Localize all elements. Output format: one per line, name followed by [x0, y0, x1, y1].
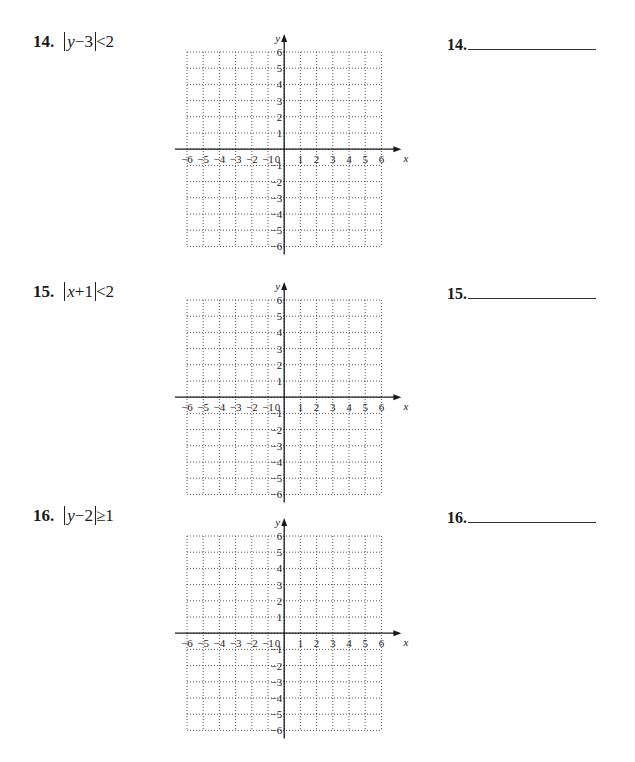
x-axis-label: x [402, 636, 408, 648]
x-tick-label: 4 [346, 401, 352, 413]
x-axis-arrow-icon [393, 394, 401, 400]
x-tick-label: −4 [214, 153, 226, 165]
y-tick-label: 2 [277, 111, 283, 123]
x-tick-label: −2 [246, 153, 258, 165]
y-tick-label: 2 [277, 359, 283, 371]
y-axis-arrow-icon [281, 518, 287, 526]
x-axis-arrow-icon [393, 146, 401, 152]
x-axis-arrow-icon [393, 630, 401, 636]
problem-statement: 14.y−3<2 [33, 32, 114, 52]
answer-label: 14. [447, 36, 467, 53]
coordinate-grid-16[interactable]: xy−6−5−4−3−2−10123456654321−1−2−3−4−5−6 [170, 514, 410, 744]
x-tick-label: −4 [214, 637, 226, 649]
y-tick-label: 4 [277, 78, 283, 90]
problem-statement: 15.x+1<2 [33, 282, 114, 302]
problem-number: 16. [33, 506, 54, 525]
x-tick-label: 3 [330, 637, 336, 649]
x-tick-label: 4 [346, 637, 352, 649]
y-tick-label: 1 [277, 127, 283, 139]
x-tick-label: 5 [362, 153, 368, 165]
operator: − [75, 32, 85, 51]
y-tick-label: −5 [270, 224, 282, 236]
y-axis-arrow-icon [281, 282, 287, 290]
x-tick-label: −4 [214, 401, 226, 413]
y-tick-label: 3 [277, 579, 283, 591]
x-tick-label: 6 [379, 153, 385, 165]
y-tick-label: 4 [277, 326, 283, 338]
y-tick-label: 5 [277, 546, 283, 558]
variable: y [67, 32, 75, 51]
x-tick-label: 1 [298, 153, 304, 165]
y-tick-label: −1 [270, 159, 282, 171]
x-tick-label: −5 [197, 401, 209, 413]
x-tick-label: −3 [230, 637, 242, 649]
x-tick-label: −6 [181, 401, 193, 413]
y-tick-label: 6 [277, 294, 283, 306]
x-tick-label: −3 [230, 153, 242, 165]
constant: 1 [84, 282, 93, 301]
y-tick-label: −3 [270, 676, 282, 688]
y-tick-label: −3 [270, 192, 282, 204]
y-tick-label: −3 [270, 440, 282, 452]
x-tick-label: 1 [298, 637, 304, 649]
x-axis-label: x [402, 400, 408, 412]
operator: + [75, 282, 85, 301]
coordinate-grid-15[interactable]: xy−6−5−4−3−2−10123456654321−1−2−3−4−5−6 [170, 278, 410, 508]
answer-field-15[interactable]: 15. [447, 284, 596, 303]
y-tick-label: 1 [277, 611, 283, 623]
variable: x [67, 282, 75, 301]
y-tick-label: −6 [270, 724, 282, 736]
rhs: 2 [105, 32, 114, 51]
variable: y [67, 506, 75, 525]
x-tick-label: −6 [181, 637, 193, 649]
rhs: 2 [105, 282, 114, 301]
problem-number: 14. [33, 32, 54, 51]
y-axis-label: y [274, 32, 280, 44]
answer-blank[interactable] [468, 284, 596, 299]
problem-number: 15. [33, 282, 54, 301]
y-tick-label: 5 [277, 310, 283, 322]
constant: 2 [84, 506, 93, 525]
x-tick-label: −5 [197, 637, 209, 649]
y-tick-label: −4 [270, 208, 282, 220]
x-tick-label: 2 [314, 637, 320, 649]
y-tick-label: −6 [270, 240, 282, 252]
x-axis-label: x [402, 152, 408, 164]
y-tick-label: −4 [270, 692, 282, 704]
answer-field-16[interactable]: 16. [447, 508, 596, 527]
x-tick-label: 3 [330, 153, 336, 165]
x-tick-label: −2 [246, 401, 258, 413]
y-tick-label: 6 [277, 530, 283, 542]
y-tick-label: −5 [270, 708, 282, 720]
constant: 3 [84, 32, 93, 51]
x-tick-label: 2 [314, 401, 320, 413]
x-tick-label: −6 [181, 153, 193, 165]
x-tick-label: 1 [298, 401, 304, 413]
answer-blank[interactable] [468, 508, 596, 523]
coordinate-grid-14[interactable]: xy−6−5−4−3−2−10123456654321−1−2−3−4−5−6 [170, 30, 410, 260]
y-axis-label: y [274, 280, 280, 292]
y-tick-label: 6 [277, 46, 283, 58]
y-axis-label: y [274, 516, 280, 528]
inequality-expression: y−2≥1 [64, 506, 113, 525]
y-tick-label: 2 [277, 595, 283, 607]
y-tick-label: 3 [277, 343, 283, 355]
y-tick-label: −4 [270, 456, 282, 468]
y-tick-label: −1 [270, 643, 282, 655]
answer-blank[interactable] [468, 35, 596, 50]
x-tick-label: 5 [362, 401, 368, 413]
problem-statement: 16.y−2≥1 [33, 506, 114, 526]
y-tick-label: 5 [277, 62, 283, 74]
inequality-expression: y−3<2 [64, 32, 114, 51]
y-tick-label: −2 [270, 424, 282, 436]
y-tick-label: 1 [277, 375, 283, 387]
y-tick-label: −5 [270, 472, 282, 484]
y-axis-arrow-icon [281, 34, 287, 42]
x-tick-label: −3 [230, 401, 242, 413]
y-tick-label: −1 [270, 407, 282, 419]
answer-label: 15. [447, 285, 467, 302]
answer-field-14[interactable]: 14. [447, 35, 596, 54]
x-tick-label: 5 [362, 637, 368, 649]
rhs: 1 [105, 506, 114, 525]
x-tick-label: −2 [246, 637, 258, 649]
